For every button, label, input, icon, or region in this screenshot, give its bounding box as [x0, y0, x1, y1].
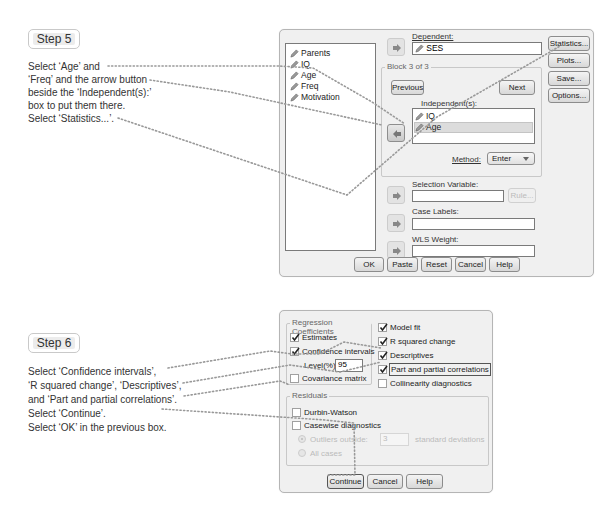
scale-variable-icon: [290, 49, 299, 58]
variable-item-parents[interactable]: Parents: [290, 48, 330, 58]
checkmark-icon: [379, 351, 388, 360]
scale-variable-icon: [415, 123, 424, 132]
step-5-line-4: box to put them there.: [28, 99, 125, 112]
checkmark-icon: [291, 347, 300, 356]
covariance-matrix-label[interactable]: Covariance matrix: [302, 374, 366, 383]
previous-block-button[interactable]: Previous: [391, 80, 424, 95]
all-cases-label: All cases: [310, 449, 342, 458]
confidence-intervals-label[interactable]: Confidence intervals: [302, 347, 374, 356]
step-5-line-3: beside the ‘Independent(s):’: [28, 86, 151, 99]
scale-variable-icon: [415, 112, 424, 121]
collinearity-diagnostics-checkbox[interactable]: [378, 379, 387, 388]
model-fit-checkbox[interactable]: [378, 323, 387, 332]
cancel-button[interactable]: Cancel: [455, 257, 486, 272]
scale-variable-icon: [290, 71, 299, 80]
part-partial-correlations-label[interactable]: Part and partial correlations: [389, 363, 491, 376]
scale-variable-icon: [415, 44, 424, 53]
statistics-dialog: Regression Coefficients Estimates Confid…: [279, 310, 493, 493]
method-label: Method:: [452, 155, 481, 164]
case-labels-label: Case Labels:: [412, 207, 459, 216]
step-5-line-2: ‘Freq’ and the arrow button: [28, 73, 147, 86]
ok-button[interactable]: OK: [354, 257, 384, 272]
linear-regression-dialog: Parents IQ Age Freq Motivation Dependent…: [279, 29, 594, 277]
step-6-line-5: Select ‘OK’ in the previous box.: [28, 421, 167, 434]
r-squared-change-checkbox[interactable]: [378, 337, 387, 346]
outliers-std-field: 3: [380, 433, 409, 446]
model-fit-label[interactable]: Model fit: [390, 323, 420, 332]
checkmark-icon: [379, 337, 388, 346]
move-to-dependent-button[interactable]: [387, 38, 405, 56]
covariance-matrix-checkbox[interactable]: [290, 374, 299, 383]
step-6-line-3: and ‘Part and partial correlations’.: [28, 393, 177, 406]
checkmark-icon: [379, 365, 388, 374]
independent-item-age[interactable]: Age: [415, 122, 441, 132]
step-6-line-2: ‘R squared change’, ‘Descriptives’,: [28, 379, 181, 392]
method-select[interactable]: Enter: [487, 152, 535, 165]
paste-button[interactable]: Paste: [387, 257, 418, 272]
collinearity-diagnostics-label[interactable]: Collinearity diagnostics: [390, 379, 472, 388]
step-6-line-4: Select ‘Continue’.: [28, 407, 106, 420]
next-block-button[interactable]: Next: [499, 80, 535, 95]
estimates-checkbox[interactable]: [290, 333, 299, 342]
arrow-left-icon: [392, 129, 402, 139]
arrow-right-icon: [392, 246, 402, 256]
variable-item-motivation[interactable]: Motivation: [290, 92, 340, 102]
dependent-field[interactable]: SES: [412, 42, 542, 55]
plots-button[interactable]: Plots...: [548, 53, 590, 68]
variable-item-iq[interactable]: IQ: [290, 59, 310, 69]
level-label: Level(%):: [304, 361, 338, 370]
selection-variable-label: Selection Variable:: [412, 180, 478, 189]
selection-variable-field[interactable]: [412, 190, 504, 202]
checkmark-icon: [379, 323, 388, 332]
continue-button[interactable]: Continue: [327, 474, 364, 489]
arrow-right-icon: [392, 191, 402, 201]
arrow-right-icon: [392, 43, 402, 53]
durbin-watson-label[interactable]: Durbin-Watson: [304, 408, 357, 417]
outliers-outside-radio: [298, 435, 306, 443]
outliers-outside-label: Outliers outside:: [310, 435, 368, 444]
casewise-diagnostics-label[interactable]: Casewise diagnostics: [304, 421, 381, 430]
move-to-independents-button[interactable]: [387, 124, 405, 142]
step-5-line-1: Select ‘Age’ and: [28, 60, 100, 73]
wls-weight-field[interactable]: [412, 245, 535, 257]
descriptives-label[interactable]: Descriptives: [390, 351, 434, 360]
options-button[interactable]: Options...: [548, 88, 590, 103]
step-5-line-5: Select ‘Statistics...’.: [28, 112, 114, 125]
move-to-case-labels-button[interactable]: [387, 214, 405, 232]
case-labels-field[interactable]: [412, 218, 535, 230]
variable-item-freq[interactable]: Freq: [290, 81, 318, 91]
durbin-watson-checkbox[interactable]: [292, 408, 301, 417]
variable-list[interactable]: Parents IQ Age Freq Motivation: [285, 43, 376, 251]
arrow-right-icon: [392, 219, 402, 229]
confidence-intervals-checkbox[interactable]: [290, 347, 299, 356]
move-to-selection-variable-button[interactable]: [387, 186, 405, 204]
scale-variable-icon: [290, 60, 299, 69]
r-squared-change-label[interactable]: R squared change: [390, 337, 455, 346]
stats-help-button[interactable]: Help: [406, 474, 443, 489]
independent-item-iq[interactable]: IQ: [415, 111, 435, 121]
independents-label: Independent(s):: [421, 99, 477, 108]
checkmark-icon: [291, 333, 300, 342]
stats-cancel-button[interactable]: Cancel: [367, 474, 403, 489]
statistics-button[interactable]: Statistics...: [548, 36, 590, 51]
standard-deviations-label: standard deviations: [415, 435, 484, 444]
dependent-label: Dependent:: [412, 32, 453, 41]
wls-weight-label: WLS Weight:: [412, 235, 459, 244]
chevron-down-icon: [523, 157, 529, 161]
step-6-line-1: Select ‘Confidence intervals’,: [28, 365, 156, 378]
save-button[interactable]: Save...: [548, 71, 590, 86]
independents-list[interactable]: IQ Age: [412, 108, 535, 144]
step-6-badge: Step 6: [28, 333, 80, 353]
part-partial-correlations-checkbox[interactable]: [378, 365, 387, 374]
level-field[interactable]: 95: [335, 359, 363, 372]
scale-variable-icon: [290, 93, 299, 102]
reset-button[interactable]: Reset: [421, 257, 452, 272]
casewise-diagnostics-checkbox[interactable]: [292, 421, 301, 430]
estimates-label[interactable]: Estimates: [302, 333, 337, 342]
scale-variable-icon: [290, 82, 299, 91]
descriptives-checkbox[interactable]: [378, 351, 387, 360]
all-cases-radio: [298, 449, 306, 457]
variable-item-age[interactable]: Age: [290, 70, 316, 80]
step-5-badge: Step 5: [28, 29, 80, 49]
help-button[interactable]: Help: [489, 257, 520, 272]
